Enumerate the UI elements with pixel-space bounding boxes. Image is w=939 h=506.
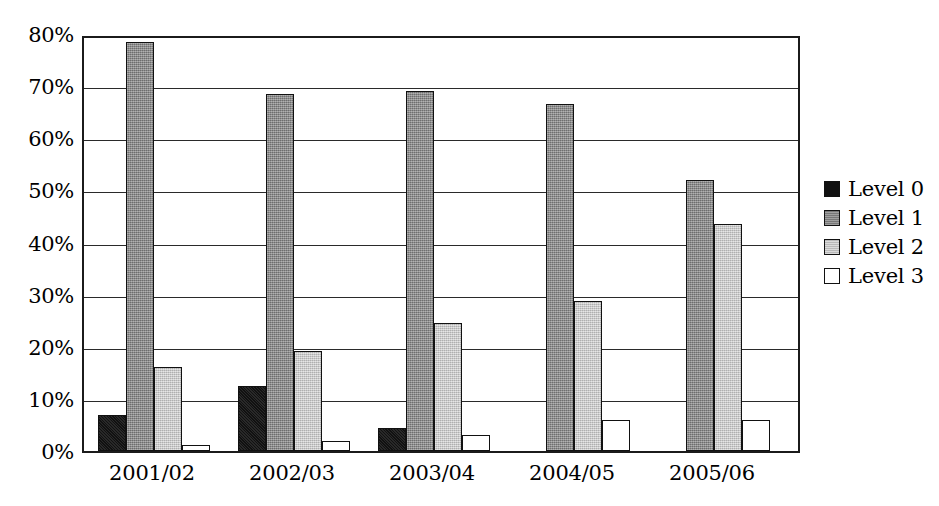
bar-2005-06-level-1 — [686, 180, 714, 451]
legend-swatch-icon — [824, 210, 840, 226]
y-tick-label: 30% — [0, 286, 74, 307]
legend-label: Level 3 — [848, 265, 924, 287]
bar-2004-05-level-1 — [546, 104, 574, 451]
legend-swatch-icon — [824, 268, 840, 284]
y-tick-label: 50% — [0, 181, 74, 202]
bar-2002-03-level-1 — [266, 94, 294, 451]
bar-2001-02-level-1 — [126, 42, 154, 451]
bar-2003-04-level-3 — [462, 435, 490, 451]
legend-label: Level 1 — [848, 207, 924, 229]
legend-item-level-1[interactable]: Level 1 — [824, 207, 924, 229]
bar-2002-03-level-0 — [238, 386, 266, 451]
legend-item-level-3[interactable]: Level 3 — [824, 265, 924, 287]
x-tick-label: 2004/05 — [529, 460, 615, 486]
bar-2004-05-level-2 — [574, 301, 602, 451]
y-tick-label: 20% — [0, 338, 74, 359]
y-tick-label: 80% — [0, 25, 74, 46]
bar-2002-03-level-2 — [294, 351, 322, 451]
x-axis: 2001/022002/032003/042004/052005/06 — [0, 460, 939, 500]
y-tick-label: 10% — [0, 390, 74, 411]
bar-2003-04-level-2 — [434, 323, 462, 451]
legend-item-level-0[interactable]: Level 0 — [824, 178, 924, 200]
legend: Level 0Level 1Level 2Level 3 — [824, 178, 924, 287]
legend-item-level-2[interactable]: Level 2 — [824, 236, 924, 258]
x-tick-label: 2001/02 — [109, 460, 195, 486]
bar-2001-02-level-2 — [154, 367, 182, 451]
legend-label: Level 2 — [848, 236, 924, 258]
bar-2003-04-level-0 — [378, 428, 406, 451]
legend-label: Level 0 — [848, 178, 924, 200]
y-tick-label: 70% — [0, 77, 74, 98]
bar-2004-05-level-3 — [602, 420, 630, 451]
y-tick-label: 40% — [0, 234, 74, 255]
legend-swatch-icon — [824, 181, 840, 197]
bar-chart: 0%10%20%30%40%50%60%70%80% 2001/022002/0… — [0, 0, 939, 506]
y-axis: 0%10%20%30%40%50%60%70%80% — [0, 0, 74, 506]
bar-2001-02-level-3 — [182, 445, 210, 451]
bar-2005-06-level-3 — [742, 420, 770, 451]
plot-area — [82, 36, 800, 453]
legend-swatch-icon — [824, 239, 840, 255]
x-tick-label: 2005/06 — [669, 460, 755, 486]
bar-2003-04-level-1 — [406, 91, 434, 451]
y-tick-label: 60% — [0, 129, 74, 150]
bars-layer — [84, 38, 798, 451]
bar-2002-03-level-3 — [322, 441, 350, 451]
bar-2001-02-level-0 — [98, 415, 126, 451]
bar-2005-06-level-2 — [714, 224, 742, 451]
x-tick-label: 2003/04 — [389, 460, 475, 486]
x-tick-label: 2002/03 — [249, 460, 335, 486]
